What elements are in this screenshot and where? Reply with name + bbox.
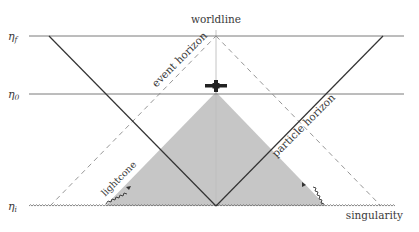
eta-i-label: ηi <box>8 200 18 214</box>
past-lightcone-region <box>105 92 326 206</box>
spacetime-diagram: ηf η0 ηi worldline event horizon particl… <box>0 0 419 232</box>
eta-f-label: ηf <box>8 30 19 44</box>
eta-0-label: η0 <box>8 88 20 102</box>
worldline-label: worldline <box>191 13 241 25</box>
singularity-label: singularity <box>346 209 403 221</box>
event-horizon-label: event horizon <box>149 29 209 89</box>
satellite-icon <box>205 80 227 92</box>
